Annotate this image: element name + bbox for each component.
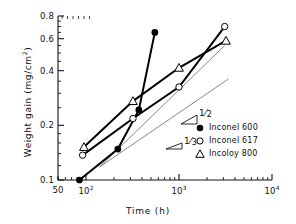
y-tick-label: 0.2 (24, 120, 54, 130)
legend-markers (196, 125, 204, 158)
legend-item-incoloy-800: Incoloy 800 (209, 149, 258, 158)
x-axis-ticks (58, 174, 272, 180)
legend-item-inconel-600: Inconel 600 (209, 123, 258, 132)
x-axis-label: Time (h) (0, 206, 296, 216)
slope-annotation: 1⁄2 (199, 108, 212, 119)
y-tick-label: 0.1 (24, 175, 54, 185)
y-axis-label: Weight gain (mg/cm2) (21, 27, 33, 177)
data-series-group (76, 23, 230, 183)
x-tick-label: 102 (70, 185, 102, 196)
x-tick-label: 103 (163, 185, 195, 196)
legend-item-inconel-617: Inconel 617 (209, 136, 258, 145)
x-tick-label: 104 (256, 185, 288, 196)
slope-annotation: 1⁄3 (184, 136, 197, 147)
chart-figure: Weight gain (mg/cm2) Time (h) 5010210310… (0, 0, 296, 224)
y-tick-label: 0.4 (24, 66, 54, 76)
y-tick-label: 0.8 (24, 11, 54, 21)
y-tick-label: 0.6 (24, 34, 54, 44)
